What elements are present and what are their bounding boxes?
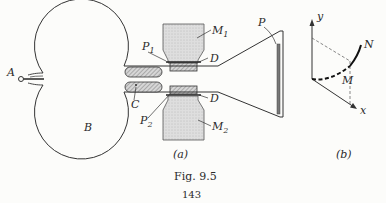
- label-p2: P2: [139, 114, 153, 129]
- terminal-a: [19, 73, 45, 85]
- panel-a-label: (a): [173, 148, 188, 161]
- screen-p: [277, 44, 280, 114]
- label-m: M: [341, 74, 354, 87]
- panel-b-label: (b): [336, 148, 352, 161]
- trajectory-solid: [350, 45, 361, 66]
- label-y-axis: y: [316, 10, 324, 23]
- label-d-top: D: [209, 52, 219, 65]
- cathode-c-lower: [125, 82, 162, 92]
- label-m2: M2: [211, 120, 228, 135]
- figure-caption: Fig. 9.5: [174, 170, 217, 183]
- label-b: B: [83, 121, 92, 134]
- panel-a-apparatus: [19, 0, 284, 159]
- label-p1: P1: [141, 40, 155, 55]
- figure-canvas: A B C P1 P2 M1 M2 D D P y x N M (a) (b) …: [0, 0, 386, 203]
- page-number: 143: [182, 189, 201, 200]
- label-m1: M1: [211, 24, 228, 39]
- cathode-c-upper: [125, 67, 162, 77]
- label-p: P: [257, 16, 266, 29]
- plate-p2: [170, 86, 197, 94]
- bulb-b: [34, 0, 128, 159]
- magnet-m1: [163, 24, 204, 63]
- label-x-axis: x: [360, 104, 367, 117]
- label-n: N: [363, 38, 374, 51]
- label-c: C: [131, 98, 140, 111]
- panel-b-axes: [310, 19, 362, 109]
- plate-p1: [170, 63, 197, 71]
- magnet-m2: [163, 96, 204, 140]
- label-d-bottom: D: [209, 92, 219, 105]
- label-a: A: [6, 66, 15, 79]
